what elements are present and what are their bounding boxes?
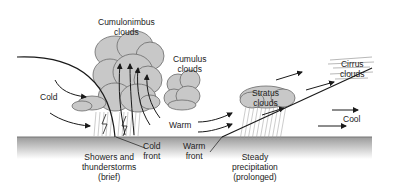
label-line: Showers and	[82, 152, 136, 162]
label-line: clouds	[98, 27, 155, 37]
cold-air-arrow	[55, 80, 86, 97]
label-stratus: Stratus clouds	[252, 88, 279, 108]
label-line: Steady	[232, 152, 278, 162]
cumulus-cloud	[164, 70, 200, 110]
label-line: clouds	[252, 98, 279, 108]
label-line: (brief)	[82, 172, 136, 182]
label-cold-front: Cold front	[143, 141, 160, 161]
label-showers: Showers and thunderstorms (brief)	[82, 152, 136, 182]
label-line: (prolonged)	[232, 172, 278, 182]
warm-air-arrow	[276, 72, 302, 80]
label-steady: Steady precipitation (prolonged)	[232, 152, 278, 182]
label-cool: Cool	[343, 114, 360, 124]
label-line: clouds	[173, 64, 207, 74]
warm-air-arrow	[198, 113, 232, 122]
label-line: precipitation	[232, 162, 278, 172]
label-warm-front: Warm front	[183, 141, 205, 161]
label-cirrus: Cirrus clouds	[340, 59, 365, 79]
label-cumulonimbus: Cumulonimbus clouds	[98, 17, 155, 37]
warm-air-arrow	[306, 82, 334, 90]
label-line: Cirrus	[340, 59, 365, 69]
label-cold: Cold	[40, 92, 57, 102]
label-line: Stratus	[252, 88, 279, 98]
label-warm: Warm	[169, 120, 191, 130]
label-line: thunderstorms	[82, 162, 136, 172]
label-line: Warm	[183, 141, 205, 151]
front-diagram	[0, 0, 397, 196]
cold-air-arrow	[50, 113, 90, 126]
label-line: front	[183, 151, 205, 161]
label-line: Cumulonimbus	[98, 17, 155, 27]
warm-air-arrow	[198, 124, 232, 132]
label-line: Cumulus	[173, 54, 207, 64]
label-line: front	[143, 151, 160, 161]
label-line: Cold	[143, 141, 160, 151]
label-line: clouds	[340, 69, 365, 79]
label-cumulus: Cumulus clouds	[173, 54, 207, 74]
